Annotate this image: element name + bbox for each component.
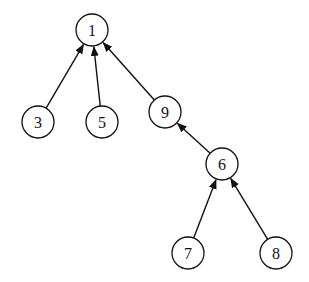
diagram-canvas: 1359678 (0, 0, 309, 282)
node-9: 9 (149, 96, 181, 128)
node-8: 8 (260, 237, 292, 269)
edge-8-to-6 (231, 179, 268, 240)
node-label: 9 (161, 104, 169, 121)
node-label: 8 (272, 245, 280, 262)
edge-3-to-1 (46, 45, 83, 109)
node-label: 1 (88, 22, 96, 39)
node-6: 6 (206, 148, 238, 180)
node-7: 7 (172, 237, 204, 269)
edge-5-to-1 (94, 47, 100, 106)
node-label: 6 (218, 156, 226, 173)
node-1: 1 (76, 14, 108, 46)
node-5: 5 (86, 106, 118, 138)
edge-9-to-1 (103, 43, 154, 100)
edge-7-to-6 (194, 180, 216, 238)
tree-diagram: 1359678 (0, 0, 309, 282)
node-label: 3 (34, 114, 42, 131)
node-label: 7 (184, 245, 192, 262)
node-3: 3 (22, 106, 54, 138)
edge-6-to-9 (178, 123, 211, 153)
node-label: 5 (98, 114, 106, 131)
